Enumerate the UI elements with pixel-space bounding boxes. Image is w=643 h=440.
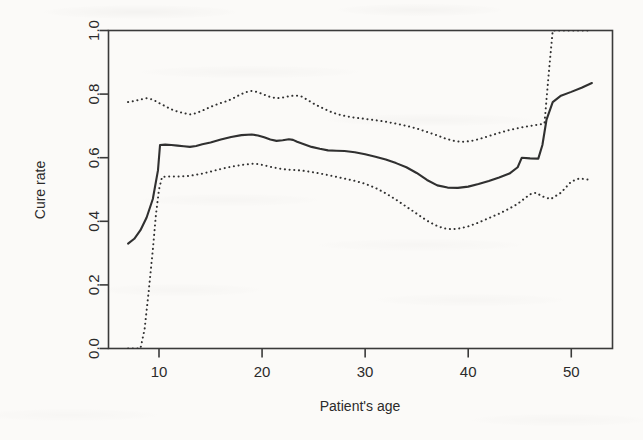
cure-rate-chart: 0.00.20.40.60.81.0 1020304050 Patient's … — [0, 0, 643, 440]
x-tick-label: 10 — [151, 363, 168, 380]
x-tick-label: 20 — [254, 363, 271, 380]
x-axis: 1020304050 — [151, 349, 580, 380]
x-tick-label: 40 — [460, 363, 477, 380]
x-tick-label: 50 — [563, 363, 580, 380]
x-tick-label: 30 — [357, 363, 374, 380]
x-axis-title: Patient's age — [320, 398, 401, 414]
y-tick-label: 1.0 — [85, 20, 102, 41]
plot-frame — [109, 31, 613, 349]
data-series-group — [128, 31, 592, 349]
y-tick-label: 0.0 — [85, 338, 102, 359]
confidence-band-line — [128, 31, 592, 142]
confidence-band-line — [128, 164, 592, 349]
y-tick-label: 0.8 — [85, 84, 102, 105]
estimate-line — [128, 83, 592, 244]
y-axis-title: Cure rate — [32, 161, 48, 220]
y-tick-label: 0.6 — [85, 147, 102, 168]
y-tick-label: 0.4 — [85, 211, 102, 232]
y-axis: 0.00.20.40.60.81.0 — [85, 20, 109, 359]
figure-container: 0.00.20.40.60.81.0 1020304050 Patient's … — [0, 0, 643, 440]
y-tick-label: 0.2 — [85, 274, 102, 295]
